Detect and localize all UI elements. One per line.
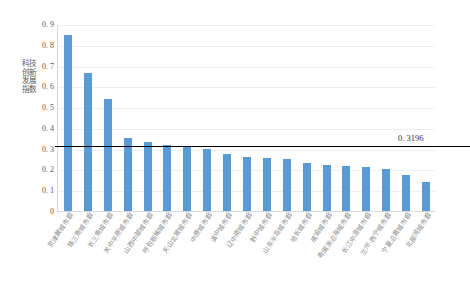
bar[interactable] — [323, 165, 331, 211]
y-tick-label: 0. 3 — [24, 146, 54, 154]
bar[interactable] — [124, 138, 132, 211]
bar[interactable] — [382, 169, 390, 211]
reference-line-label: 0. 3196 — [398, 134, 424, 143]
y-tick-label: 0. 9 — [24, 21, 54, 29]
bar[interactable] — [422, 182, 430, 212]
bar[interactable] — [263, 158, 271, 211]
bar[interactable] — [223, 154, 231, 211]
chart-container: 科技创新发展指数 0. 90. 80. 70. 60. 50. 40. 30. … — [0, 0, 470, 303]
y-tick-label: 0. 4 — [24, 125, 54, 133]
bar[interactable] — [283, 159, 291, 211]
bar[interactable] — [144, 142, 152, 211]
reference-line — [55, 146, 470, 147]
bar[interactable] — [243, 157, 251, 211]
bar[interactable] — [342, 166, 350, 211]
plot-area — [57, 25, 435, 212]
x-axis-tick-labels: 京津冀城市群珠三角城市群长三角城市群关中平原城市群山西中部城市群呼包鄂榆城市群天… — [57, 212, 435, 302]
bar-series — [58, 25, 435, 211]
bar[interactable] — [183, 147, 191, 211]
y-tick-label: 0. 1 — [24, 187, 54, 195]
y-tick-label: 0. 2 — [24, 166, 54, 174]
y-tick-label: 0. 5 — [24, 104, 54, 112]
y-tick-label: 0. 7 — [24, 63, 54, 71]
y-tick-label: 0. 8 — [24, 42, 54, 50]
bar[interactable] — [203, 149, 211, 211]
bar[interactable] — [362, 167, 370, 211]
bar[interactable] — [402, 175, 410, 211]
bar[interactable] — [84, 73, 92, 211]
y-tick-label: 0. 6 — [24, 83, 54, 91]
bar[interactable] — [303, 163, 311, 211]
y-axis-tick-labels: 0. 90. 80. 70. 60. 50. 40. 30. 20. 10 — [20, 25, 54, 212]
bar[interactable] — [64, 35, 72, 211]
bar[interactable] — [163, 145, 171, 211]
y-tick-label: 0 — [24, 208, 54, 216]
bar[interactable] — [104, 99, 112, 211]
